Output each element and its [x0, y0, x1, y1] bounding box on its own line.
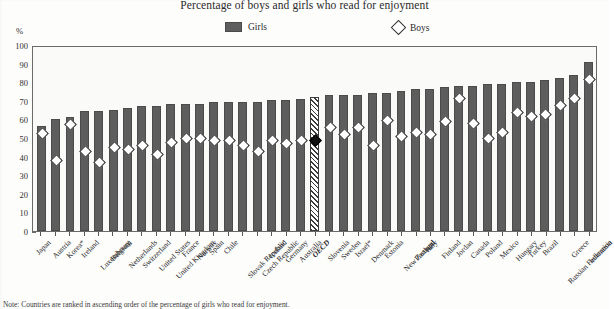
bar-girls[interactable]: [109, 110, 118, 231]
x-axis-label-spain[interactable]: Spain: [206, 237, 220, 289]
bar-girls[interactable]: [94, 111, 103, 231]
chart-column[interactable]: [523, 47, 537, 231]
x-axis-label-germany[interactable]: Germany: [278, 237, 292, 289]
marker-boys[interactable]: [511, 106, 524, 119]
marker-boys[interactable]: [381, 114, 394, 127]
marker-boys[interactable]: [223, 134, 236, 147]
bar-girls[interactable]: [440, 87, 449, 231]
bar-girls[interactable]: [569, 75, 578, 231]
x-axis-label-hungary[interactable]: Hungary: [509, 237, 523, 289]
bar-girls[interactable]: [296, 99, 305, 231]
x-axis-label-norway[interactable]: Norway: [192, 237, 206, 289]
chart-column[interactable]: [250, 47, 264, 231]
x-axis-label-luxembourg[interactable]: Luxembourg: [91, 237, 105, 289]
marker-boys[interactable]: [280, 137, 293, 150]
marker-boys[interactable]: [252, 145, 265, 158]
bar-girls[interactable]: [382, 93, 391, 231]
marker-boys[interactable]: [122, 143, 135, 156]
x-axis-label-italy[interactable]: Italy: [423, 237, 437, 289]
marker-boys[interactable]: [165, 136, 178, 149]
bar-girls[interactable]: [166, 104, 175, 231]
bar-girls[interactable]: [454, 86, 463, 231]
x-axis-label-korea[interactable]: Korea*: [62, 237, 76, 289]
marker-boys[interactable]: [324, 121, 337, 134]
chart-column[interactable]: [34, 47, 48, 231]
marker-boys[interactable]: [137, 139, 150, 152]
marker-boys[interactable]: [568, 92, 581, 105]
marker-boys[interactable]: [93, 156, 106, 169]
x-axis-label-poland[interactable]: Poland: [481, 237, 495, 289]
bar-girls[interactable]: [195, 104, 204, 231]
marker-boys[interactable]: [151, 148, 164, 161]
marker-boys[interactable]: [482, 132, 495, 145]
bar-girls[interactable]: [123, 108, 132, 231]
bar-girls[interactable]: [137, 106, 146, 231]
x-axis-label-australia[interactable]: Australia: [293, 237, 307, 289]
bar-girls[interactable]: [368, 93, 377, 231]
x-axis-label-greece[interactable]: Greece: [567, 237, 581, 289]
chart-column[interactable]: [480, 47, 494, 231]
marker-boys[interactable]: [50, 154, 63, 167]
x-axis-label-portugal[interactable]: Portugal: [408, 237, 422, 289]
bar-girls[interactable]: [425, 89, 434, 231]
bar-girls[interactable]: [339, 95, 348, 231]
chart-column[interactable]: [538, 47, 552, 231]
x-axis-label-chile[interactable]: Chile: [221, 237, 235, 289]
chart-column[interactable]: [106, 47, 120, 231]
marker-boys[interactable]: [396, 130, 409, 143]
bar-girls[interactable]: [181, 104, 190, 231]
bar-girls[interactable]: [37, 126, 46, 231]
chart-column[interactable]: [379, 47, 393, 231]
x-axis-label-sweden[interactable]: Sweden: [336, 237, 350, 289]
bar-girls[interactable]: [224, 102, 233, 231]
bar-girls[interactable]: [51, 119, 60, 231]
x-axis-label-mexico[interactable]: Mexico: [495, 237, 509, 289]
chart-column[interactable]: [437, 47, 451, 231]
chart-column[interactable]: [120, 47, 134, 231]
bar-girls[interactable]: [483, 84, 492, 231]
marker-boys[interactable]: [554, 99, 567, 112]
marker-boys[interactable]: [180, 132, 193, 145]
chart-column[interactable]: [581, 47, 595, 231]
chart-column[interactable]: [509, 47, 523, 231]
marker-boys[interactable]: [367, 139, 380, 152]
chart-column[interactable]: [92, 47, 106, 231]
chart-column[interactable]: [552, 47, 566, 231]
x-axis-label-netherlands[interactable]: Netherlands: [120, 237, 134, 289]
chart-column[interactable]: [279, 47, 293, 231]
bar-girls[interactable]: [80, 111, 89, 231]
chart-column[interactable]: [351, 47, 365, 231]
chart-column[interactable]: [394, 47, 408, 231]
marker-boys[interactable]: [309, 134, 322, 147]
marker-boys[interactable]: [352, 121, 365, 134]
bar-girls[interactable]: [584, 62, 593, 231]
chart-column[interactable]: [235, 47, 249, 231]
marker-boys[interactable]: [453, 92, 466, 105]
bar-girls[interactable]: [540, 80, 549, 231]
chart-column[interactable]: [164, 47, 178, 231]
x-axis-label-france[interactable]: France: [177, 237, 191, 289]
bar-girls[interactable]: [512, 82, 521, 231]
x-axis-label-ireland[interactable]: Ireland: [76, 237, 90, 289]
marker-boys[interactable]: [194, 132, 207, 145]
marker-boys[interactable]: [439, 116, 452, 129]
x-axis-label-austria[interactable]: Austria: [47, 237, 61, 289]
x-axis-label-russian-federation[interactable]: Russian Federation: [553, 237, 567, 289]
marker-boys[interactable]: [583, 74, 596, 87]
marker-boys[interactable]: [108, 141, 121, 154]
bar-girls[interactable]: [468, 86, 477, 231]
x-axis-label-united-states[interactable]: United States: [149, 237, 163, 289]
chart-column[interactable]: [149, 47, 163, 231]
x-axis-label-israel[interactable]: Israel*: [351, 237, 365, 289]
chart-column[interactable]: [307, 47, 321, 231]
marker-boys[interactable]: [237, 139, 250, 152]
chart-column[interactable]: [322, 47, 336, 231]
marker-boys[interactable]: [65, 118, 78, 131]
chart-column[interactable]: [63, 47, 77, 231]
x-axis-label-slovenia[interactable]: Slovenia: [322, 237, 336, 289]
marker-boys[interactable]: [79, 145, 92, 158]
chart-column[interactable]: [135, 47, 149, 231]
chart-column[interactable]: [466, 47, 480, 231]
x-axis-label-iceland[interactable]: Iceland: [264, 237, 278, 289]
x-axis-label-united-kingdom[interactable]: United Kingdom: [163, 237, 177, 289]
